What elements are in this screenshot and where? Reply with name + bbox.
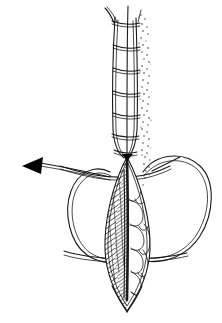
- wound-midline: [127, 158, 128, 300]
- figure-root: Continuous subcuticular wound closure wi…: [0, 0, 222, 323]
- surgical-suture-diagram: Continuous subcuticular wound closure wi…: [0, 0, 222, 323]
